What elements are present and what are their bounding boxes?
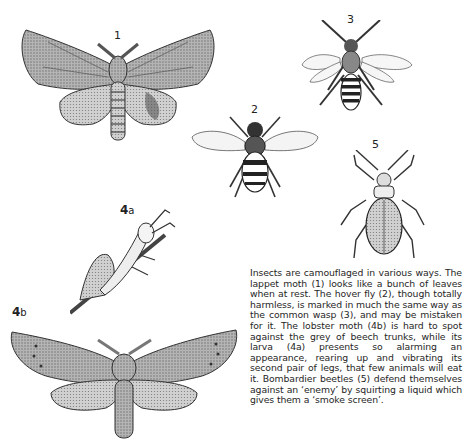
figure-caption: Insects are camouflaged in various ways.…	[250, 268, 462, 406]
figure-label-1: 1	[114, 30, 121, 41]
bombardier-beetle-illustration	[336, 150, 436, 260]
figure-label-4a: 4a	[120, 204, 135, 216]
hover-fly-illustration	[190, 112, 320, 202]
lobster-moth-larva-illustration	[70, 205, 180, 315]
figure-label-5: 5	[372, 139, 379, 150]
wasp-illustration	[300, 20, 420, 120]
label-letter: a	[128, 205, 134, 216]
figure-label-4b: 4b	[12, 306, 27, 318]
figure-label-3: 3	[347, 14, 354, 25]
lobster-moth-illustration	[6, 318, 242, 444]
label-letter: b	[20, 307, 26, 318]
figure-label-2: 2	[251, 104, 258, 115]
